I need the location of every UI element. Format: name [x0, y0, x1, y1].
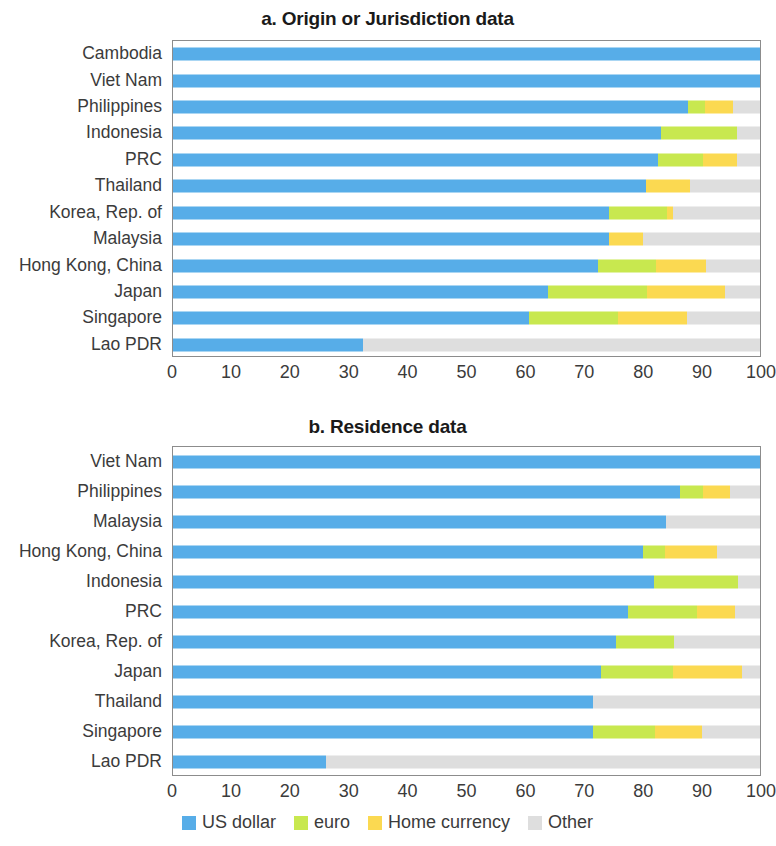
bar-row: [173, 507, 760, 537]
stacked-bar: [173, 48, 760, 61]
x-axis-tick: 90: [692, 362, 712, 383]
category-label: Philippines: [77, 481, 162, 502]
legend-item-usd: US dollar: [182, 812, 276, 833]
x-axis-tick: 60: [515, 362, 535, 383]
stacked-bar: [173, 576, 760, 589]
x-axis-tick: 10: [221, 362, 241, 383]
bar-segment-home-currency: [665, 546, 717, 559]
category-label: Viet Nam: [90, 451, 162, 472]
bar-segment-us-dollar: [173, 127, 661, 140]
category-label: Korea, Rep. of: [49, 201, 162, 222]
bar-segment-home-currency: [647, 285, 725, 298]
category-label: Korea, Rep. of: [49, 631, 162, 652]
stacked-bar: [173, 285, 760, 298]
bar-segment-us-dollar: [173, 756, 326, 769]
legend-swatch-home-icon: [368, 816, 382, 830]
bar-segment-home-currency: [703, 486, 730, 499]
bar-row: [173, 67, 760, 93]
bar-segment-other: [738, 576, 760, 589]
x-axis-tick: 90: [692, 781, 712, 802]
stacked-bar: [173, 756, 760, 769]
category-label: Thailand: [95, 691, 162, 712]
bar-segment-other: [687, 312, 760, 325]
bar-segment-euro: [601, 666, 673, 679]
bar-segment-other: [690, 180, 760, 193]
x-axis-tick: 20: [280, 362, 300, 383]
bar-row: [173, 173, 760, 199]
bar-segment-other: [326, 756, 760, 769]
legend-swatch-eur-icon: [294, 816, 308, 830]
stacked-bar: [173, 516, 760, 529]
bar-segment-euro: [661, 127, 736, 140]
bar-row: [173, 687, 760, 717]
stacked-bar: [173, 606, 760, 619]
panel-b-x-axis: 0102030405060708090100: [0, 779, 775, 809]
bar-row: [173, 597, 760, 627]
panel-a-plot-area: [172, 40, 761, 357]
bar-row: [173, 252, 760, 278]
stacked-bar: [173, 456, 760, 469]
category-label: Thailand: [95, 175, 162, 196]
stacked-bar: [173, 666, 760, 679]
bar-segment-other: [742, 666, 760, 679]
bar-segment-us-dollar: [173, 696, 593, 709]
stacked-bar: [173, 486, 760, 499]
bar-segment-us-dollar: [173, 666, 601, 679]
stacked-bar: [173, 101, 760, 114]
bar-segment-other: [717, 546, 760, 559]
legend-label: US dollar: [202, 812, 276, 833]
bar-segment-home-currency: [697, 606, 735, 619]
bar-row: [173, 279, 760, 305]
panel-a-title: a. Origin or Jurisdiction data: [0, 8, 775, 30]
stacked-bar: [173, 338, 760, 351]
stacked-bar: [173, 726, 760, 739]
bar-row: [173, 657, 760, 687]
stacked-bar: [173, 312, 760, 325]
stacked-bar: [173, 180, 760, 193]
stacked-bar: [173, 696, 760, 709]
bar-segment-euro: [548, 285, 647, 298]
bar-segment-home-currency: [705, 101, 733, 114]
bar-row: [173, 717, 760, 747]
legend-item-eur: euro: [294, 812, 350, 833]
legend-item-home: Home currency: [368, 812, 510, 833]
category-label: Lao PDR: [91, 751, 162, 772]
x-axis-tick: 70: [574, 781, 594, 802]
bar-row: [173, 200, 760, 226]
bar-segment-euro: [628, 606, 697, 619]
x-axis-tick: 50: [456, 362, 476, 383]
panel-a-category-labels: CambodiaViet NamPhilippinesIndonesiaPRCT…: [0, 40, 168, 357]
bar-segment-us-dollar: [173, 180, 646, 193]
category-label: Viet Nam: [90, 69, 162, 90]
stacked-bar: [173, 74, 760, 87]
bar-segment-other: [363, 338, 760, 351]
bar-segment-home-currency: [618, 312, 687, 325]
x-axis-tick: 30: [339, 781, 359, 802]
bar-row: [173, 120, 760, 146]
bar-segment-us-dollar: [173, 546, 643, 559]
panel-b-category-labels: Viet NamPhilippinesMalaysiaHong Kong, Ch…: [0, 446, 168, 776]
bar-segment-other: [733, 101, 760, 114]
stacked-bar: [173, 153, 760, 166]
panel-b-title: b. Residence data: [0, 416, 775, 438]
bar-row: [173, 41, 760, 67]
bar-segment-us-dollar: [173, 312, 529, 325]
bar-segment-us-dollar: [173, 726, 593, 739]
bar-segment-euro: [593, 726, 655, 739]
bar-segment-other: [725, 285, 760, 298]
bar-segment-euro: [598, 259, 656, 272]
bar-segment-us-dollar: [173, 233, 609, 246]
bar-segment-us-dollar: [173, 153, 658, 166]
x-axis-tick: 0: [167, 362, 177, 383]
bar-segment-other: [674, 636, 760, 649]
bar-row: [173, 567, 760, 597]
bar-segment-us-dollar: [173, 338, 363, 351]
legend-label: euro: [314, 812, 350, 833]
category-label: Malaysia: [93, 511, 162, 532]
bar-segment-us-dollar: [173, 636, 616, 649]
stacked-bar: [173, 259, 760, 272]
bar-segment-euro: [643, 546, 665, 559]
category-label: PRC: [125, 148, 162, 169]
category-label: Japan: [114, 280, 162, 301]
